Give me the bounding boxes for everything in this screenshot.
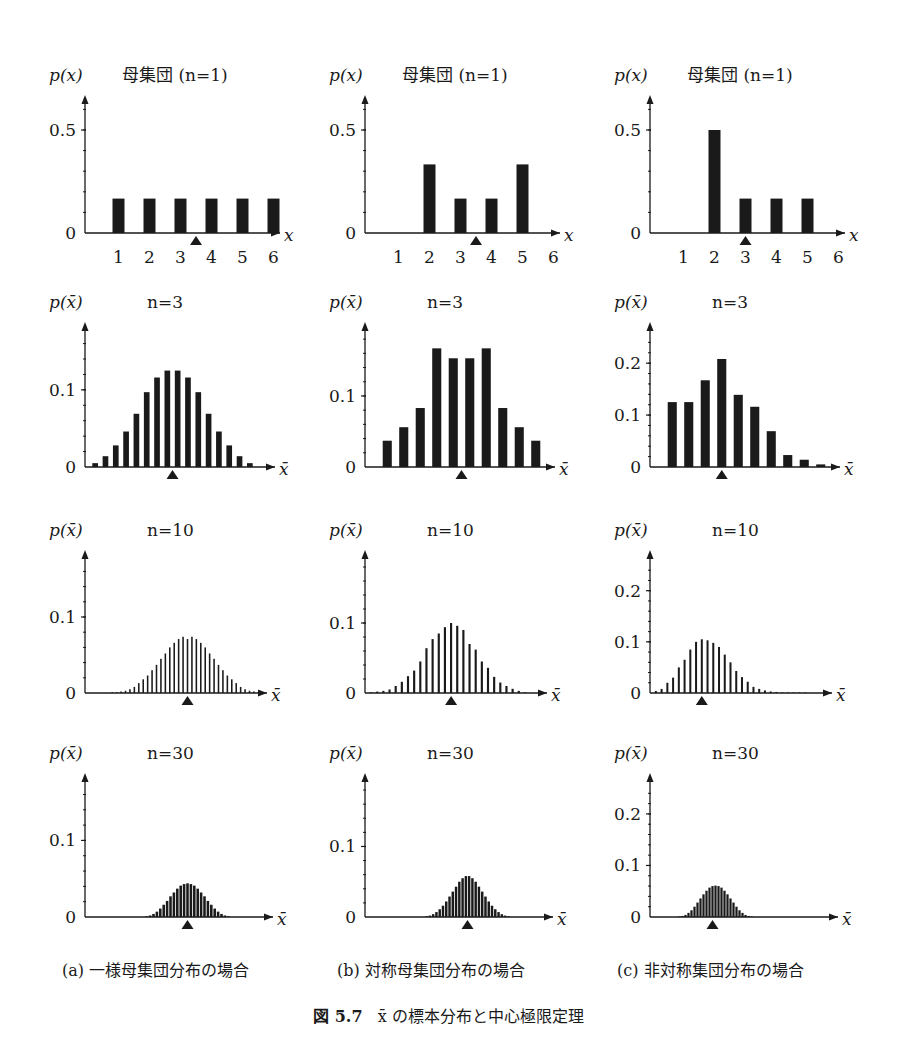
bar [138,683,140,693]
bar [178,639,180,693]
y-axis-label: p(x̄) [614,520,648,540]
x-axis-label: x̄ [557,909,567,929]
bar [471,878,473,917]
bar [726,894,728,917]
bar [468,876,470,917]
bar [203,896,206,917]
bar [370,692,372,693]
bar [512,689,514,693]
bar [419,662,421,694]
bar [204,647,206,693]
bar [162,905,165,917]
bar [123,432,129,467]
mean-marker-icon [716,470,728,479]
bar [712,643,714,693]
bar [507,916,509,917]
bar [134,687,136,693]
bar [92,463,98,467]
x-tick-label: 2 [144,247,155,267]
y-axis-arrow-icon [362,773,369,782]
chart-panel-a-n3: 00.1p(x̄)n=3x̄ [49,292,289,479]
bar [152,914,155,917]
x-axis-label: x̄ [551,685,561,705]
y-tick-label: 0.1 [49,380,76,400]
bar [449,358,458,467]
y-axis-label: p(x̄) [49,520,83,540]
bar [173,643,175,693]
bar [432,639,434,693]
bar [750,916,752,917]
x-tick-label: 2 [709,247,720,267]
bar [488,901,490,917]
bar [125,691,127,693]
bar [176,889,179,917]
bar [182,637,184,693]
bar [735,907,737,917]
bar [432,914,434,917]
bar [200,643,202,693]
bar [237,456,243,467]
bar [247,463,253,467]
bar [708,888,710,917]
bar [729,662,731,693]
bar [505,686,507,693]
bar [413,671,415,693]
bar [741,677,743,693]
bar [478,887,480,917]
bar [145,916,148,917]
mean-marker-icon [182,920,194,929]
bar [800,460,809,467]
bar [465,358,474,467]
bar [491,906,493,917]
figure-title: x̄ の標本分布と中心極限定理 [378,1007,584,1026]
x-axis-label: x̄ [842,909,852,929]
panel-title: n=30 [147,743,194,763]
bar [134,414,140,467]
bar [206,414,212,467]
bar [220,914,223,917]
y-axis-label: p(x) [329,65,363,85]
bar [524,692,526,693]
bar [701,639,703,693]
bar [767,431,776,467]
panel-title: n=30 [427,743,474,763]
x-tick-label: 4 [206,247,217,267]
y-axis-label: p(x̄) [329,292,363,312]
bar [438,909,440,917]
caption-b: (b) 対称母集団分布の場合 [337,957,525,981]
y-tick-label: 0 [345,907,356,927]
bar [401,682,403,693]
y-axis-label: p(x) [49,65,83,85]
y-axis-label: p(x̄) [329,520,363,540]
bar [416,408,425,467]
bar [129,689,131,693]
bar [175,371,181,467]
bar [196,889,199,917]
bar [771,199,783,233]
x-tick-label: 5 [802,247,813,267]
bar [695,642,697,693]
bar [493,677,495,693]
bar [798,692,800,693]
bar [482,348,491,467]
y-tick-label: 0.1 [49,830,76,850]
bar [268,199,280,233]
bar [484,897,486,917]
x-axis-arrow-icon [823,690,832,697]
y-tick-label: 0.1 [329,613,356,633]
bar [113,445,119,467]
bar [179,886,182,917]
x-tick-label: 4 [771,247,782,267]
bar [445,901,447,917]
bar [240,687,242,693]
bar [735,671,737,693]
bar [103,456,109,467]
bar [235,683,237,693]
x-tick-label: 1 [113,247,124,267]
bar [783,455,792,467]
bar [518,691,520,693]
bar [160,659,162,693]
charts-canvas: 00.5p(x)母集団 (n=1)x12345600.5p(x)母集団 (n=1… [0,0,897,1055]
bar [693,907,695,917]
bar [734,395,743,467]
